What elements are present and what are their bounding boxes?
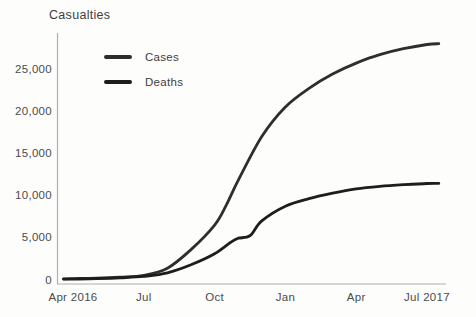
x-tick-label: Apr [347, 291, 366, 303]
plot-area: 05,00010,00015,00020,00025,000Apr 2016Ju… [0, 0, 476, 317]
deaths-line [64, 183, 439, 279]
cases-line-swatch [104, 55, 132, 58]
x-tick-label: Apr 2016 [48, 291, 97, 303]
x-tick-label: Oct [205, 291, 224, 303]
y-tick-label: 25,000 [15, 63, 52, 75]
y-tick-label: 20,000 [15, 105, 52, 117]
legend-label-deaths: Deaths [145, 76, 183, 88]
legend-entry-deaths: Deaths [104, 73, 183, 91]
legend: Cases Deaths [104, 48, 183, 98]
y-tick-label: 15,000 [15, 147, 52, 159]
y-tick-label: 10,000 [15, 189, 52, 201]
legend-entry-cases: Cases [104, 48, 183, 66]
x-tick-label: Jul [136, 291, 152, 303]
legend-label-cases: Cases [145, 51, 179, 63]
x-tick-label: Jul 2017 [404, 291, 450, 303]
deaths-line-swatch [104, 80, 132, 83]
x-tick-label: Jan [276, 291, 295, 303]
casualties-chart: Casualties 05,00010,00015,00020,00025,00… [0, 0, 476, 317]
y-tick-label: 0 [45, 274, 52, 286]
y-tick-label: 5,000 [22, 231, 52, 243]
